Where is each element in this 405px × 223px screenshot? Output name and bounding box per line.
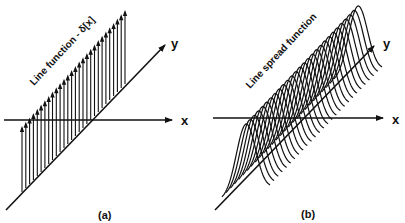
caption-a: (a) [98, 209, 112, 221]
x-axis-label-a: x [181, 113, 189, 128]
y-axis-b [215, 46, 374, 210]
figure-canvas: x y Line function - δ[x] (a) x y Line sp… [0, 0, 405, 223]
panel-a: x y Line function - δ[x] (a) [4, 10, 189, 221]
x-axis-label-b: x [392, 112, 400, 127]
caption-b: (b) [301, 208, 315, 220]
y-axis-label-b: y [383, 36, 391, 51]
panel-b: x y Line spread function (b) [213, 6, 400, 220]
y-axis-label-a: y [171, 36, 179, 51]
